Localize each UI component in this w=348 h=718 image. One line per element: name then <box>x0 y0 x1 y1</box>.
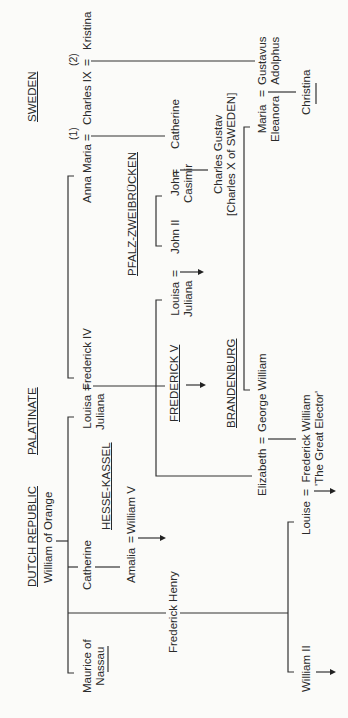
married-symbol: = <box>256 437 269 444</box>
person-maria-eleanora: Maria Eleanora <box>256 96 281 142</box>
person-george-william: George William <box>256 353 269 432</box>
line-frederickhenry-children <box>288 522 294 672</box>
person-frederick-henry: Frederick Henry <box>167 571 180 653</box>
person-frederick-iv: Frederick IV <box>81 328 94 390</box>
person-anna-maria: Anna Maria <box>81 144 94 203</box>
person-william-v: William V <box>125 486 138 534</box>
person-william-ii: William II <box>300 645 313 692</box>
person-louise: Louise <box>300 501 313 535</box>
person-catherine-sweden: Catherine <box>169 99 182 149</box>
house-frederick-v: FREDERICK V <box>168 345 181 422</box>
arrow-head <box>160 535 166 541</box>
person-louisa-juliana-1: Louisa Juliana <box>81 394 106 430</box>
person-louisa-juliana-2: Louisa Juliana <box>169 281 194 317</box>
person-kristina: Kristina <box>81 12 94 50</box>
married-symbol: = <box>81 134 94 141</box>
person-john-casimir: John Casimir <box>169 164 194 203</box>
married-symbol: = <box>169 270 182 277</box>
person-william-of-orange: William of Orange <box>42 492 55 583</box>
person-charles-gustav: Charles Gustav [Charles X of SWEDEN] <box>212 93 237 216</box>
line-annamaria-frederickiv <box>68 176 74 378</box>
person-maurice-of-nassau: Maurice of Nassau <box>81 639 106 693</box>
house-brandenburg: BRANDENBURG <box>225 339 238 428</box>
line-orange-children <box>68 417 74 673</box>
person-elizabeth: Elizabeth <box>256 449 269 496</box>
married-symbol: = <box>125 536 138 543</box>
house-pfalz-zweibrucken: PFALZ-ZWEIBRÜCKEN <box>126 152 139 276</box>
person-charles-ix: Charles IX <box>81 71 94 125</box>
person-frederick-william: Frederick William 'The Great Elector' <box>300 391 325 486</box>
house-sweden: SWEDEN <box>26 72 39 122</box>
married-symbol: = <box>81 59 94 66</box>
arrow-head <box>330 669 336 675</box>
house-palatinate: PALATINATE <box>26 387 39 455</box>
married-symbol: = <box>300 489 313 496</box>
person-amalia: Amalia <box>125 548 138 583</box>
person-john-ii: John II <box>169 219 182 254</box>
marriage-number-2: (2) <box>67 53 80 66</box>
person-gustavus-adolphus: Gustavus Adolphus <box>256 36 281 85</box>
house-dutch-republic: DUTCH REPUBLIC <box>26 486 39 587</box>
arrow-head <box>200 382 206 388</box>
line-pfalz-sons <box>156 196 162 246</box>
line-mariaeleanora-georgewilliam <box>244 127 250 390</box>
house-hesse-kassel: HESSE-KASSEL <box>100 442 113 530</box>
person-christina: Christina <box>300 70 313 115</box>
arrow-head <box>330 488 336 494</box>
person-catherine-orange: Catherine <box>81 540 94 590</box>
marriage-number-1: (1) <box>67 127 80 140</box>
arrow-head <box>198 269 204 275</box>
married-symbol: = <box>81 384 94 391</box>
